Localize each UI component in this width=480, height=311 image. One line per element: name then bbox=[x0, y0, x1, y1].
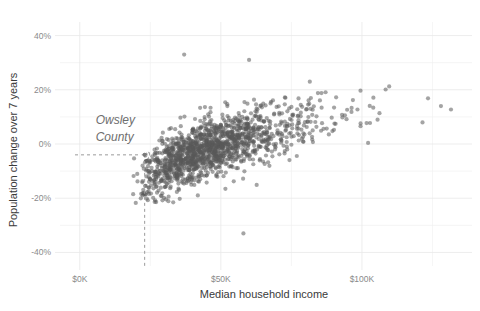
data-point bbox=[255, 183, 259, 187]
data-point bbox=[325, 126, 329, 130]
data-point bbox=[175, 177, 179, 181]
y-tick-label: 20% bbox=[34, 85, 51, 95]
x-tick-label: $100K bbox=[350, 274, 375, 284]
data-point bbox=[181, 181, 185, 185]
data-point bbox=[157, 181, 161, 185]
data-point bbox=[279, 119, 283, 123]
data-point bbox=[203, 129, 207, 133]
data-point bbox=[308, 80, 312, 84]
data-point bbox=[225, 102, 229, 106]
data-point bbox=[169, 185, 173, 189]
data-point bbox=[251, 162, 255, 166]
data-point bbox=[248, 157, 252, 161]
data-point bbox=[310, 113, 314, 117]
data-point bbox=[301, 140, 305, 144]
data-point bbox=[296, 114, 300, 118]
data-point bbox=[251, 140, 255, 144]
annotation-layer: OwsleyCounty bbox=[75, 113, 148, 266]
data-point bbox=[249, 120, 253, 124]
data-point bbox=[358, 89, 362, 93]
data-point bbox=[167, 195, 171, 199]
data-point bbox=[345, 108, 349, 112]
data-point bbox=[216, 141, 220, 145]
data-point bbox=[297, 133, 301, 137]
data-point bbox=[231, 153, 235, 157]
data-point bbox=[242, 169, 246, 173]
data-point bbox=[296, 96, 300, 100]
data-point bbox=[310, 137, 314, 141]
data-point bbox=[218, 158, 222, 162]
data-point bbox=[268, 126, 272, 130]
data-point bbox=[285, 135, 289, 139]
data-point bbox=[202, 148, 206, 152]
data-point bbox=[332, 128, 336, 132]
data-point bbox=[131, 192, 135, 196]
x-tick-label: $0K bbox=[72, 274, 87, 284]
data-point bbox=[202, 174, 206, 178]
data-point bbox=[213, 137, 217, 141]
data-point bbox=[179, 174, 183, 178]
data-point bbox=[151, 196, 155, 200]
data-point bbox=[160, 166, 164, 170]
data-point bbox=[260, 125, 264, 129]
data-point bbox=[248, 136, 252, 140]
data-point bbox=[187, 168, 191, 172]
data-point bbox=[134, 201, 138, 205]
data-point bbox=[221, 134, 225, 138]
data-point bbox=[234, 137, 238, 141]
data-point bbox=[178, 159, 182, 163]
data-point bbox=[139, 196, 143, 200]
data-point bbox=[171, 200, 175, 204]
data-point bbox=[197, 180, 201, 184]
data-point bbox=[247, 58, 251, 62]
data-point bbox=[242, 143, 246, 147]
data-point bbox=[168, 154, 172, 158]
data-point bbox=[210, 164, 214, 168]
data-point bbox=[190, 146, 194, 150]
data-point bbox=[265, 116, 269, 120]
data-point bbox=[196, 150, 200, 154]
data-point bbox=[297, 138, 301, 142]
data-point bbox=[161, 139, 165, 143]
data-point bbox=[176, 149, 180, 153]
data-point bbox=[366, 141, 370, 145]
data-point bbox=[208, 106, 212, 110]
data-point bbox=[420, 120, 424, 124]
data-point bbox=[323, 90, 327, 94]
data-point bbox=[259, 133, 263, 137]
data-point bbox=[152, 148, 156, 152]
data-point bbox=[246, 146, 250, 150]
data-point bbox=[179, 132, 183, 136]
data-point bbox=[178, 197, 182, 201]
data-point bbox=[219, 123, 223, 127]
data-point bbox=[222, 153, 226, 157]
data-point bbox=[270, 154, 274, 158]
data-point bbox=[205, 180, 209, 184]
data-point bbox=[340, 115, 344, 119]
data-point bbox=[191, 128, 195, 132]
data-point bbox=[289, 105, 293, 109]
annotation-label: County bbox=[96, 130, 135, 144]
data-point bbox=[274, 105, 278, 109]
y-tick-label: -20% bbox=[31, 193, 51, 203]
data-point bbox=[155, 172, 159, 176]
data-point bbox=[267, 137, 271, 141]
data-point bbox=[224, 123, 228, 127]
data-point bbox=[152, 178, 156, 182]
data-point bbox=[263, 125, 267, 129]
data-point bbox=[283, 129, 287, 133]
data-point bbox=[160, 151, 164, 155]
data-point bbox=[319, 91, 323, 95]
data-point bbox=[358, 121, 362, 125]
data-point bbox=[252, 98, 256, 102]
data-point bbox=[165, 137, 169, 141]
data-point bbox=[132, 156, 136, 160]
data-point bbox=[236, 155, 240, 159]
data-point bbox=[223, 187, 227, 191]
data-point bbox=[181, 146, 185, 150]
data-point bbox=[153, 151, 157, 155]
data-point bbox=[311, 128, 315, 132]
data-point bbox=[173, 127, 177, 131]
data-point bbox=[277, 152, 281, 156]
data-point bbox=[214, 166, 218, 170]
